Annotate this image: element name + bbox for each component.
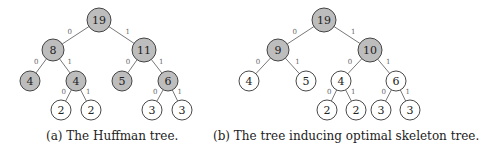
node-label: 2 xyxy=(353,104,360,117)
tree-edge xyxy=(62,27,89,44)
caption-huffman-tree: (a) The Huffman tree. xyxy=(46,129,178,143)
edge-label: 0 xyxy=(153,88,157,96)
node-label: 4 xyxy=(338,75,345,88)
node-label: 6 xyxy=(165,75,172,88)
edge-label: 0 xyxy=(256,58,260,66)
edge-label: 1 xyxy=(405,88,409,96)
edge-label: 1 xyxy=(386,58,390,66)
tree-edge xyxy=(66,90,72,101)
node-label: 3 xyxy=(407,104,414,117)
node-label: 8 xyxy=(50,44,57,57)
edge-label: 0 xyxy=(327,88,331,96)
skeleton-tree-figure: 01010101011991045462233 xyxy=(239,8,420,120)
edge-label: 0 xyxy=(348,58,352,66)
edge-label: 0 xyxy=(67,28,71,36)
tree-edge xyxy=(331,90,336,101)
edge-label: 1 xyxy=(177,88,181,96)
huffman-tree-figure: 01010101011981144562233 xyxy=(20,8,192,120)
node-label: 4 xyxy=(246,75,253,88)
node-label: 3 xyxy=(149,104,156,117)
node-label: 2 xyxy=(58,104,65,117)
node-label: 9 xyxy=(275,44,282,57)
tree-edge xyxy=(386,90,392,101)
edge-label: 1 xyxy=(159,58,163,66)
node-label: 5 xyxy=(303,75,310,88)
edge-label: 0 xyxy=(126,58,130,66)
edge-label: 0 xyxy=(292,28,296,36)
edge-label: 0 xyxy=(382,88,386,96)
edge-label: 0 xyxy=(62,88,66,96)
edge-label: 1 xyxy=(86,88,90,96)
node-label: 4 xyxy=(73,75,80,88)
caption-skeleton-tree: (b) The tree inducing optimal skeleton t… xyxy=(213,129,479,143)
edge-label: 1 xyxy=(126,28,130,36)
tree-edge xyxy=(287,27,314,44)
edge-label: 1 xyxy=(295,58,299,66)
edge-label: 1 xyxy=(351,88,355,96)
node-label: 11 xyxy=(137,44,151,57)
edge-label: 1 xyxy=(67,58,71,66)
node-label: 5 xyxy=(119,75,126,88)
node-label: 19 xyxy=(92,14,106,27)
node-label: 2 xyxy=(324,104,331,117)
tree-edge xyxy=(157,90,163,101)
tree-edge xyxy=(334,27,360,44)
edge-label: 0 xyxy=(34,58,38,66)
edge-label: 1 xyxy=(351,28,355,36)
node-label: 19 xyxy=(317,14,331,27)
node-label: 3 xyxy=(179,104,186,117)
node-label: 3 xyxy=(378,104,385,117)
node-label: 2 xyxy=(88,104,95,117)
node-label: 10 xyxy=(363,44,377,57)
node-label: 6 xyxy=(393,75,400,88)
tree-edge xyxy=(109,27,134,44)
node-label: 4 xyxy=(27,75,34,88)
